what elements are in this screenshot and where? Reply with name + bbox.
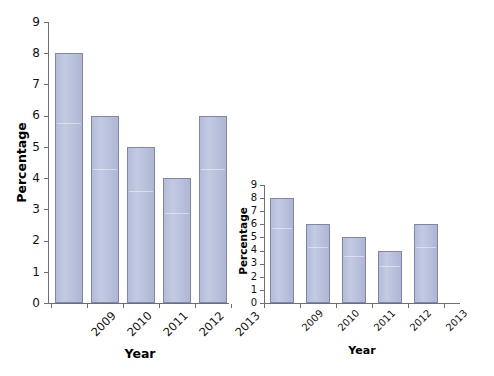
x-tick-label-2011: 2011 [162, 310, 191, 339]
x-tick-label-2012: 2012 [408, 308, 433, 333]
y-tick-mark [260, 237, 264, 238]
y-tick-mark [260, 264, 264, 265]
x-tick-mark [87, 304, 88, 308]
y-tick-mark [260, 251, 264, 252]
bar-chart-left: 012345678920092010201120122013YearPercen… [0, 0, 250, 376]
x-tick-mark [444, 304, 445, 308]
bar-2012 [378, 251, 402, 303]
y-tick-mark [44, 84, 48, 85]
y-tick-mark [44, 272, 48, 273]
bar-2009 [55, 53, 83, 303]
x-tick-mark [51, 304, 52, 308]
bar-2013 [414, 224, 438, 303]
y-tick-mark [260, 290, 264, 291]
y-tick-label: 8 [24, 47, 40, 59]
x-tick-label-2009: 2009 [90, 310, 119, 339]
y-tick-mark [44, 147, 48, 148]
y-tick-label: 7 [24, 78, 40, 90]
x-tick-mark [300, 304, 301, 308]
y-tick-mark [260, 277, 264, 278]
bar-2010 [91, 116, 119, 303]
x-tick-mark [195, 304, 196, 308]
x-tick-label-2012: 2012 [198, 310, 227, 339]
y-tick-label: 0 [24, 297, 40, 309]
x-axis-title: Year [302, 344, 422, 357]
x-tick-mark [372, 304, 373, 308]
y-tick-mark [44, 178, 48, 179]
x-axis-title: Year [80, 346, 200, 361]
y-tick-mark [260, 211, 264, 212]
y-axis-line [48, 22, 49, 304]
x-tick-mark [336, 304, 337, 308]
bar-2010 [306, 224, 330, 303]
bar-2011 [127, 147, 155, 303]
x-tick-label-2013: 2013 [444, 308, 469, 333]
y-tick-mark [44, 53, 48, 54]
bar-chart-right: 012345678920092010201120122013YearPercen… [232, 0, 494, 376]
bar-2013 [199, 116, 227, 303]
x-tick-label-2011: 2011 [372, 308, 397, 333]
x-tick-mark [159, 304, 160, 308]
bar-2011 [342, 237, 366, 303]
y-tick-mark [260, 224, 264, 225]
two-bar-charts-figure: 012345678920092010201120122013YearPercen… [0, 0, 494, 376]
y-tick-label: 2 [24, 234, 40, 246]
x-tick-mark [408, 304, 409, 308]
y-tick-mark [44, 241, 48, 242]
y-tick-label: 9 [24, 16, 40, 28]
y-tick-label: 1 [24, 266, 40, 278]
y-tick-mark [44, 22, 48, 23]
y-tick-mark [260, 185, 264, 186]
bar-2012 [163, 178, 191, 303]
y-tick-mark [44, 303, 48, 304]
x-axis-line [264, 303, 460, 304]
y-tick-label: 9 [244, 180, 257, 190]
y-tick-mark [44, 209, 48, 210]
y-tick-label: 0 [244, 298, 257, 308]
y-axis-title: Percentage [237, 191, 249, 291]
y-axis-line [264, 185, 265, 304]
x-tick-label-2010: 2010 [336, 308, 361, 333]
y-axis-title: Percentage [14, 113, 29, 213]
x-tick-label-2010: 2010 [126, 310, 155, 339]
x-tick-label-2009: 2009 [300, 308, 325, 333]
y-tick-mark [44, 116, 48, 117]
bar-2009 [270, 198, 294, 303]
x-axis-line [48, 303, 229, 304]
x-tick-mark [264, 304, 265, 308]
x-tick-mark [123, 304, 124, 308]
y-tick-mark [260, 198, 264, 199]
